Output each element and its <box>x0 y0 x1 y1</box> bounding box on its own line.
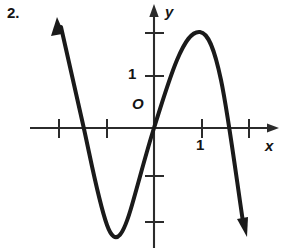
curve-right-arrowhead-icon <box>237 217 248 237</box>
problem-number-label: 2. <box>7 4 20 21</box>
cubic-curve-path <box>61 27 243 237</box>
x-axis-label: x <box>265 137 273 154</box>
origin-label: O <box>132 95 144 112</box>
x-axis-arrowhead-icon <box>267 124 279 133</box>
y-axis-arrowhead-icon <box>149 4 158 17</box>
y-axis-tick-label-one: 1 <box>128 65 136 82</box>
y-axis-label: y <box>165 3 173 20</box>
graph-figure: 2. <box>0 0 289 252</box>
x-axis-tick-label-one: 1 <box>196 136 204 153</box>
coordinate-plane-svg <box>0 0 289 252</box>
